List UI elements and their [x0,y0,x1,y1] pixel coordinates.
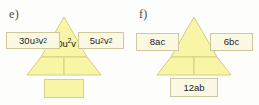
triangle-section-bottom-left-e[interactable] [27,57,64,75]
triangle-section-bottom-right-f[interactable] [194,57,231,75]
part-f-label: f) [139,7,148,22]
part-e-panel: e) 10u2v 30u3v2 5u2v2 [0,0,129,105]
part-f-panel: f) 8ac 6bc 12ab [130,0,259,105]
part-f-right-box[interactable]: 6bc [210,33,253,51]
triangle-section-bottom-right-e[interactable] [64,57,101,75]
part-e-right-base: 5u [90,36,101,46]
triangle-section-bottom-left-f[interactable] [157,57,194,75]
part-e-right-mid: v [104,36,109,46]
part-f-bottom-box[interactable]: 12ab [170,78,218,97]
part-e-right-box[interactable]: 5u2v2 [78,32,124,49]
part-e-label: e) [9,7,19,22]
part-e-left-base: 30u [19,36,35,46]
part-f-left-box[interactable]: 8ac [136,33,179,51]
part-e-bottom-box[interactable] [44,79,84,98]
part-e-left-box[interactable]: 30u3v2 [6,32,60,49]
